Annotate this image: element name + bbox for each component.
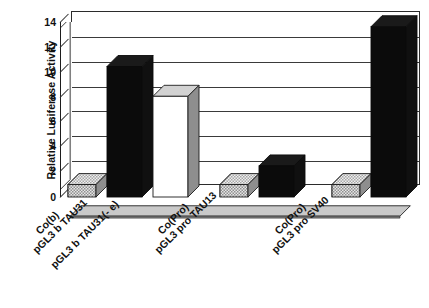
bar-pgl3-b-tau31-minus-e [153,85,199,197]
y-tick-label-2: 2 [50,165,56,177]
y-tick-label-8: 8 [50,91,56,103]
bar-pgl3-pro-tau13 [259,155,305,197]
y-tick-label-12: 12 [44,41,56,53]
y-tick-label-10: 10 [44,66,56,78]
bar-co-pro-2 [332,174,371,197]
y-tick-label-4: 4 [50,140,56,152]
bars-layer [60,11,429,197]
bar-chart: Relative Luciferase Activity 14 [0,0,429,308]
bar-pgl3-pro-sv40 [371,16,417,197]
y-tick-label-0: 0 [50,191,56,203]
plot-area: 14 12 10 8 6 4 2 0 [60,22,409,196]
y-tick-label-6: 6 [50,115,56,127]
bar-co-b [68,174,107,197]
y-tick-label-14: 14 [44,16,56,28]
x-label-co-b: Co(b) [33,209,61,237]
bar-pgl3-b-tau31 [107,56,153,198]
bar-co-pro-1 [220,174,259,197]
